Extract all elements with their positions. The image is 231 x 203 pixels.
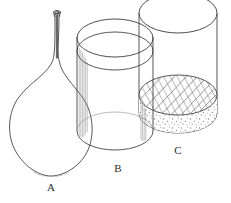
label-c: C — [174, 144, 181, 156]
lab-glassware-diagram: A B C — [0, 0, 231, 203]
label-a: A — [47, 181, 55, 193]
cylinder-c-liquid-surface — [139, 75, 217, 115]
label-b: B — [114, 162, 121, 174]
figure-canvas: A B C — [0, 0, 231, 203]
